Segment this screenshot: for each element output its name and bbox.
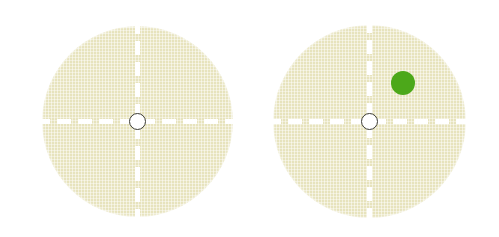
green-colony-marker[interactable] <box>391 71 415 95</box>
plate-left-center-hole[interactable] <box>129 113 146 130</box>
plate-right-center-hole[interactable] <box>361 113 378 130</box>
scene-canvas <box>0 0 499 237</box>
